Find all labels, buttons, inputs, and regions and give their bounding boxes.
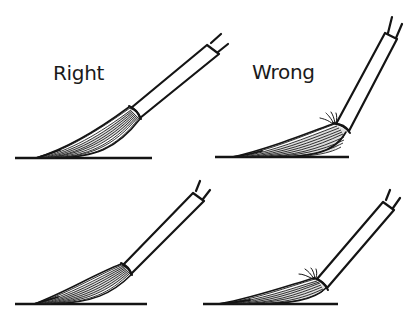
brush-bottom-right (203, 190, 400, 304)
brush-top-left (15, 34, 228, 158)
brush-handle (123, 193, 204, 274)
label-wrong: Wrong (252, 62, 315, 82)
brush-handle (336, 33, 397, 131)
label-right: Right (53, 63, 104, 83)
brush-handle (131, 45, 219, 118)
brush-technique-illustration: Right Wrong (0, 0, 418, 322)
brush-handle (317, 202, 394, 288)
brush-top-right (215, 17, 402, 157)
brush-bottom-left (15, 181, 210, 304)
